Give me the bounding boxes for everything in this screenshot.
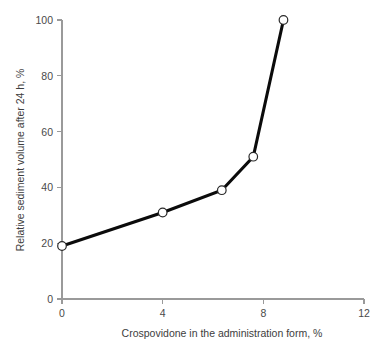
y-axis-ticks: 020406080100 <box>35 14 62 305</box>
data-point-marker <box>58 242 67 251</box>
x-tick-label: 0 <box>59 307 65 319</box>
series-markers <box>58 16 288 251</box>
data-point-marker <box>218 186 227 195</box>
y-tick-label: 80 <box>41 70 53 82</box>
data-point-marker <box>279 16 288 25</box>
data-point-marker <box>249 152 258 161</box>
series-line <box>62 20 283 246</box>
chart-figure: 020406080100 04812 Relative sediment vol… <box>0 0 379 344</box>
y-tick-label: 40 <box>41 181 53 193</box>
x-axis-ticks: 04812 <box>59 299 370 319</box>
data-point-marker <box>158 208 167 217</box>
y-tick-label: 20 <box>41 237 53 249</box>
x-tick-label: 8 <box>260 307 266 319</box>
x-axis-title: Crospovidone in the administration form,… <box>122 327 323 339</box>
y-axis-title: Relative sediment volume after 24 h, % <box>14 69 26 252</box>
line-chart-canvas: 020406080100 04812 Relative sediment vol… <box>0 0 379 344</box>
x-tick-label: 4 <box>160 307 166 319</box>
y-tick-label: 100 <box>35 14 53 26</box>
y-tick-label: 60 <box>41 126 53 138</box>
x-tick-label: 12 <box>358 307 370 319</box>
y-tick-label: 0 <box>47 293 53 305</box>
